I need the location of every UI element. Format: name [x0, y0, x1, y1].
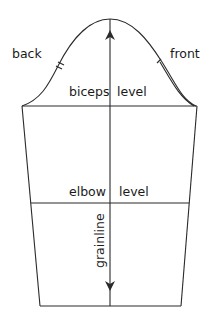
sleeve-pattern-diagram: back front biceps level elbow level grai… [0, 0, 215, 320]
elbow-label: elbow [69, 184, 106, 199]
grainline-label: grainline [92, 213, 107, 268]
elbow-level-label: level [119, 184, 149, 199]
front-underarm-seam [181, 106, 197, 306]
biceps-label: biceps [69, 84, 109, 99]
back-underarm-seam [22, 106, 40, 306]
back-label: back [12, 46, 42, 61]
biceps-level-label: level [117, 84, 147, 99]
front-seam-allowance [160, 62, 194, 106]
front-label: front [170, 46, 200, 61]
